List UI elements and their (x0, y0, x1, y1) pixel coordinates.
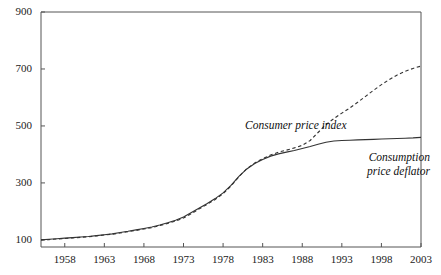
x-tick-label-1958: 1958 (45, 253, 85, 265)
plot-frame (41, 12, 421, 247)
x-axis-ticks (65, 243, 421, 247)
x-tick-label-1998: 1998 (361, 253, 401, 265)
x-tick-label-1968: 1968 (124, 253, 164, 265)
x-tick-label-1993: 1993 (322, 253, 362, 265)
y-tick-label-100: 100 (0, 233, 32, 245)
chart-container: 900 700 500 300 100 1958 1963 1968 1973 … (0, 0, 441, 275)
y-tick-label-300: 300 (0, 176, 32, 188)
annotation-consumer-price-index: Consumer price index (245, 118, 347, 132)
x-tick-label-1963: 1963 (84, 253, 124, 265)
y-tick-label-700: 700 (0, 62, 32, 74)
x-tick-label-2003: 2003 (401, 253, 441, 265)
x-tick-label-1988: 1988 (282, 253, 322, 265)
annotation-deflator-line2: price deflator (330, 164, 430, 178)
y-axis-ticks (41, 12, 45, 240)
chart-plot-area (0, 0, 441, 275)
y-tick-label-500: 500 (0, 119, 32, 131)
annotation-deflator-line1: Consumption (330, 150, 430, 164)
x-tick-label-1983: 1983 (243, 253, 283, 265)
x-tick-label-1978: 1978 (203, 253, 243, 265)
x-tick-label-1973: 1973 (164, 253, 204, 265)
annotation-consumption-price-deflator: Consumption price deflator (330, 150, 430, 179)
y-tick-label-900: 900 (0, 5, 32, 17)
